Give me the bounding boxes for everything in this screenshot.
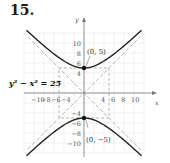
asymptote-negative (28, 37, 142, 151)
x-tick-label: −8 (41, 96, 51, 104)
x-tick-label: −4 (61, 96, 71, 104)
y-tick-label: −6 (71, 120, 81, 128)
x-tick-label: 4 (101, 96, 105, 104)
y-tick-label: −10 (67, 140, 81, 148)
y-axis-arrow (82, 17, 86, 22)
vertex-top-label: (0, 5) (87, 48, 106, 56)
vertex-bottom-label: (0, −5) (86, 136, 111, 144)
y-tick-label: 6 (77, 60, 81, 68)
hyperbola-chart: (0, 5) (0, −5) y² − x² = 25 x y −10−8−6−… (0, 0, 170, 163)
x-tick-label: 6 (111, 96, 115, 104)
x-tick-label: 8 (121, 96, 125, 104)
equation-label: y² − x² = 25 (8, 78, 62, 88)
y-tick-label: 10 (73, 40, 81, 48)
y-tick-label: −8 (71, 130, 81, 138)
x-axis-arrow (152, 91, 157, 95)
y-tick-label: 4 (77, 70, 81, 78)
y-axis-label: y (74, 16, 79, 24)
x-axis-label: x (155, 99, 159, 107)
vertex-bottom (82, 116, 86, 120)
vertex-top (82, 66, 86, 70)
y-tick-label: 8 (77, 50, 81, 58)
vertex-bottom-leader (86, 120, 88, 128)
x-tick-label: 10 (131, 96, 139, 104)
y-tick-label: −4 (71, 110, 81, 118)
x-tick-label: −6 (51, 96, 61, 104)
vertex-top-leader (86, 56, 90, 66)
asymptote-positive (28, 35, 142, 149)
